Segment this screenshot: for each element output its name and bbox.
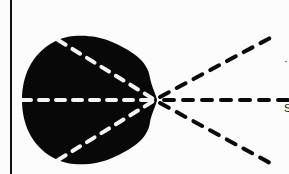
edge-label-1: · <box>284 56 288 67</box>
outer-ray-lower <box>160 103 270 163</box>
edge-label-2: S <box>284 103 289 114</box>
outer-ray-upper <box>160 38 270 97</box>
diagram-svg <box>0 0 289 174</box>
diagram-canvas: · S <box>0 0 289 174</box>
outer-rays <box>160 38 289 163</box>
